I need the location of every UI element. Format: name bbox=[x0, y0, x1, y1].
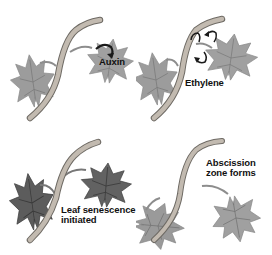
panel-senescence: Leaf senescence initiated bbox=[0, 128, 136, 255]
panel-abscission: Abscission zone forms bbox=[136, 128, 272, 255]
label-senescence-line2: initiated bbox=[61, 215, 136, 225]
panel-ethylene: Ethylene bbox=[136, 0, 272, 128]
plant-illustration-ethylene bbox=[136, 0, 272, 128]
plant-illustration-senescence bbox=[0, 128, 136, 255]
label-auxin: Auxin bbox=[99, 57, 125, 67]
leaf-right-detached bbox=[208, 192, 264, 246]
leaf-left-senescent bbox=[6, 171, 58, 233]
label-senescence: Leaf senescence initiated bbox=[61, 205, 136, 225]
leaf-right-senescent bbox=[79, 161, 133, 209]
leaf-left bbox=[7, 52, 58, 110]
label-ethylene: Ethylene bbox=[185, 78, 224, 88]
plant-illustration-abscission bbox=[136, 128, 272, 255]
label-abscission-line2: zone forms bbox=[206, 168, 256, 178]
label-abscission: Abscission zone forms bbox=[206, 158, 256, 178]
panel-auxin: Auxin bbox=[0, 0, 136, 128]
leaf-right bbox=[202, 30, 260, 83]
